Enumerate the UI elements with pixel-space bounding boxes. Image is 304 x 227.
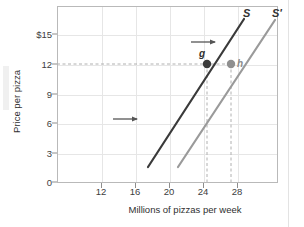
y-tick-mark [52,34,57,35]
y-tick-label: 12 [41,59,52,70]
point-label-g: g [199,48,205,59]
plot-area [57,6,278,183]
curve-label-s: S [243,7,250,19]
x-tick-label: 12 [96,186,107,197]
gridline-horizontal [58,95,277,96]
page-divider [288,0,289,227]
y-axis-ticks: $15 12 9 6 3 0 [0,0,52,227]
y-tick-mark [52,153,57,154]
y-tick-mark [52,64,57,65]
y-tick-label: $15 [36,29,52,40]
x-tick-label: 24 [198,186,209,197]
gridline-vertical [136,7,137,182]
y-tick-mark [52,123,57,124]
gridline-vertical [238,7,239,182]
gridline-horizontal [58,65,277,66]
curve-label-s-prime: S' [272,7,282,19]
gridline-horizontal [58,124,277,125]
x-tick-label: 20 [164,186,175,197]
x-tick-label: 28 [232,186,243,197]
y-tick-mark [52,94,57,95]
x-tick-label: 16 [130,186,141,197]
gridline-horizontal [58,35,277,36]
gridline-horizontal [58,154,277,155]
gridline-vertical [170,7,171,182]
gridline-vertical [102,7,103,182]
gridline-vertical [204,7,205,182]
y-tick-mark [52,182,57,183]
point-label-h: h [237,58,243,69]
x-axis-title: Millions of pizzas per week [95,204,275,215]
chart-figure: $15 12 9 6 3 0 12 16 20 24 28 Price per … [0,0,304,227]
y-axis-title: Price per pizza [11,50,22,154]
